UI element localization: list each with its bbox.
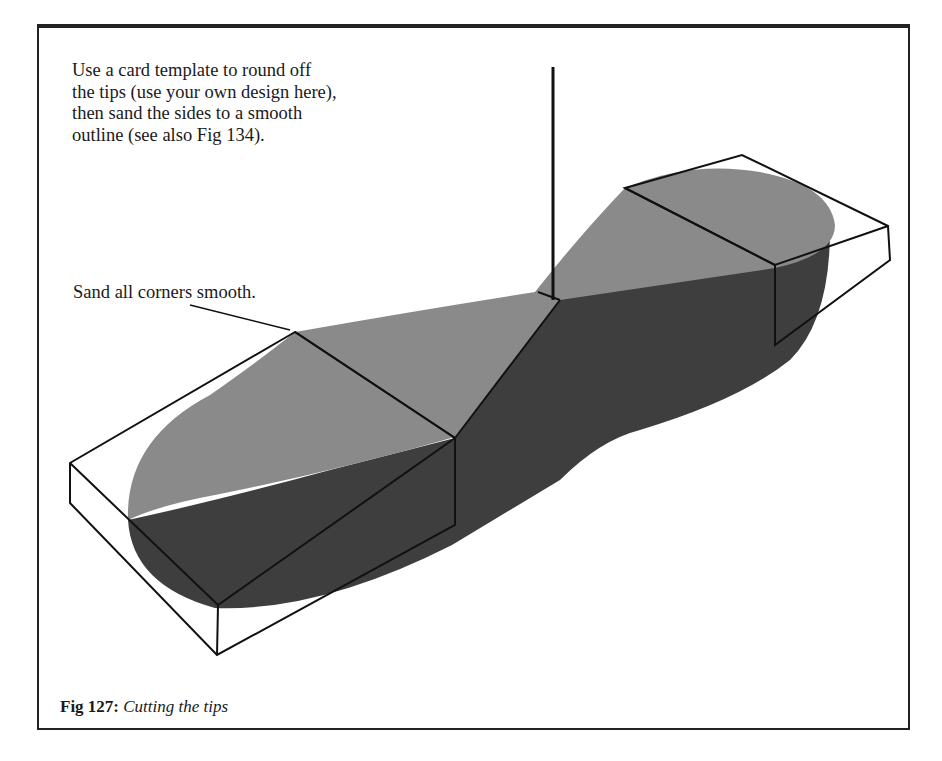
corner-callout: Sand all corners smooth. [73,282,256,303]
instruction-line: then sand the sides to a smooth [72,103,392,125]
instruction-line: Use a card template to round off [72,60,392,82]
figure-number: Fig 127: [60,697,119,716]
instruction-line: outline (see also Fig 134). [72,125,392,147]
figure-title: Cutting the tips [123,697,228,716]
instruction-note: Use a card template to round off the tip… [72,60,392,146]
figure-caption: Fig 127: Cutting the tips [60,697,228,717]
instruction-line: the tips (use your own design here), [72,82,392,104]
